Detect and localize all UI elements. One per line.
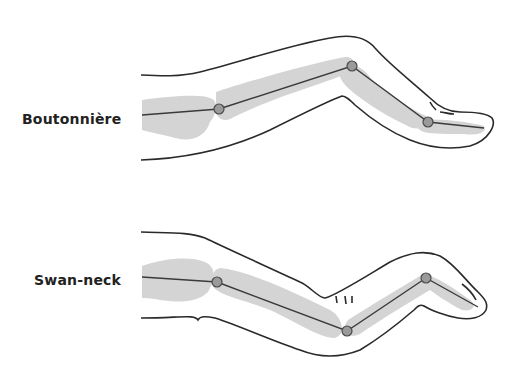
boutonniere-bones <box>142 57 485 139</box>
boutonniere-finger <box>141 36 493 160</box>
finger-deformity-diagram <box>0 0 520 381</box>
swan-neck-bones <box>142 259 474 338</box>
swan-neck-finger <box>141 232 487 356</box>
